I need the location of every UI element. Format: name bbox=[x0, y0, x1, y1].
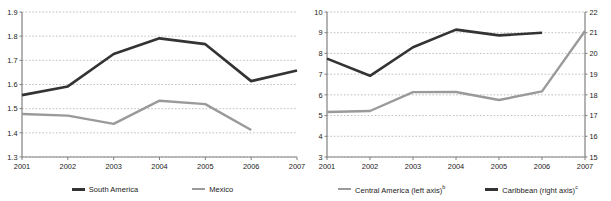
legend-footnote-central-america: b bbox=[442, 184, 445, 190]
y-tick-label-left: 7 bbox=[318, 70, 322, 79]
legend-swatch-central-america bbox=[338, 188, 351, 190]
x-tick-label: 2001 bbox=[14, 162, 30, 171]
legend-item-mexico[interactable]: Mexico bbox=[192, 185, 233, 194]
y-tick-label-left: 1.7 bbox=[7, 56, 17, 65]
x-tick-label: 2006 bbox=[243, 162, 259, 171]
y-tick-label-right: 22 bbox=[590, 8, 598, 17]
x-tick-label: 2007 bbox=[289, 162, 305, 171]
chart-panel-right: 3456789101516171819202122200120022003200… bbox=[305, 0, 611, 201]
legend-footnote-caribbean: c bbox=[575, 184, 578, 190]
y-tick-label-left: 1.5 bbox=[7, 104, 17, 113]
x-tick-label: 2003 bbox=[405, 162, 421, 171]
x-tick-label: 2002 bbox=[362, 162, 378, 171]
y-tick-label-left: 1.9 bbox=[7, 8, 17, 17]
right-chart-plot: 3456789101516171819202122200120022003200… bbox=[305, 0, 611, 181]
legend-label-central-america: Central America (left axis)b bbox=[355, 184, 445, 195]
y-tick-label-right: 20 bbox=[590, 49, 598, 58]
legend-item-south-america[interactable]: South America bbox=[72, 185, 138, 194]
y-tick-label-left: 6 bbox=[318, 91, 322, 100]
y-tick-label-right: 18 bbox=[590, 91, 598, 100]
legend-label-south-america: South America bbox=[89, 185, 138, 194]
x-tick-label: 2002 bbox=[60, 162, 76, 171]
series-line bbox=[22, 101, 251, 130]
dual-line-chart-figure: 1.31.41.51.61.71.81.92001200220032004200… bbox=[0, 0, 611, 201]
y-tick-label-left: 4 bbox=[318, 132, 322, 141]
y-tick-label-left: 10 bbox=[314, 8, 322, 17]
legend-swatch-south-america bbox=[72, 188, 85, 191]
legend-label-caribbean-text: Caribbean (right axis) bbox=[502, 185, 575, 194]
right-chart-legend: Central America (left axis)b Caribbean (… bbox=[305, 181, 611, 197]
legend-label-mexico: Mexico bbox=[209, 185, 233, 194]
y-tick-label-left: 3 bbox=[318, 153, 322, 162]
x-tick-label: 2007 bbox=[577, 162, 593, 171]
series-line bbox=[22, 38, 297, 95]
y-tick-label-right: 21 bbox=[590, 28, 598, 37]
y-tick-label-left: 1.3 bbox=[7, 153, 17, 162]
legend-swatch-caribbean bbox=[485, 188, 498, 191]
x-tick-label: 2005 bbox=[197, 162, 213, 171]
y-tick-label-left: 1.8 bbox=[7, 32, 17, 41]
y-tick-label-left: 5 bbox=[318, 111, 322, 120]
y-tick-label-left: 1.4 bbox=[7, 129, 17, 138]
legend-item-caribbean[interactable]: Caribbean (right axis)c bbox=[485, 184, 578, 195]
x-tick-label: 2001 bbox=[319, 162, 335, 171]
left-chart-plot: 1.31.41.51.61.71.81.92001200220032004200… bbox=[0, 0, 305, 181]
chart-panel-left: 1.31.41.51.61.71.81.92001200220032004200… bbox=[0, 0, 305, 201]
left-chart-legend: South America Mexico bbox=[0, 181, 305, 197]
x-tick-label: 2006 bbox=[534, 162, 550, 171]
y-tick-label-left: 1.6 bbox=[7, 80, 17, 89]
y-tick-label-right: 17 bbox=[590, 111, 598, 120]
y-tick-label-right: 15 bbox=[590, 153, 598, 162]
y-tick-label-right: 19 bbox=[590, 70, 598, 79]
legend-label-central-america-text: Central America (left axis) bbox=[355, 185, 442, 194]
x-tick-label: 2004 bbox=[151, 162, 167, 171]
x-tick-label: 2003 bbox=[105, 162, 121, 171]
legend-swatch-mexico bbox=[192, 188, 205, 190]
y-tick-label-left: 9 bbox=[318, 28, 322, 37]
legend-item-central-america[interactable]: Central America (left axis)b bbox=[338, 184, 445, 195]
x-tick-label: 2004 bbox=[448, 162, 464, 171]
y-tick-label-left: 8 bbox=[318, 49, 322, 58]
legend-label-caribbean: Caribbean (right axis)c bbox=[502, 184, 578, 195]
series-line bbox=[327, 31, 585, 112]
y-tick-label-right: 16 bbox=[590, 132, 598, 141]
series-line bbox=[327, 30, 542, 76]
x-tick-label: 2005 bbox=[491, 162, 507, 171]
